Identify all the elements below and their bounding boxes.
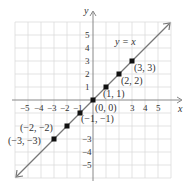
svg-text:5: 5 bbox=[156, 103, 161, 113]
svg-text:1: 1 bbox=[85, 82, 90, 92]
svg-text:4: 4 bbox=[143, 103, 148, 113]
coordinate-plane: y x y = x −5 −4 −3 −2 −1 3 4 5 5 4 3 2 1… bbox=[0, 0, 191, 190]
svg-text:−3: −3 bbox=[82, 134, 92, 144]
point-m2 bbox=[65, 124, 70, 129]
svg-text:−5: −5 bbox=[82, 160, 92, 170]
svg-text:(2, 2): (2, 2) bbox=[121, 75, 143, 87]
svg-text:(−2, −2): (−2, −2) bbox=[20, 122, 53, 134]
point-m3 bbox=[52, 137, 57, 142]
x-tick-labels: −5 −4 −3 −2 −1 3 4 5 bbox=[20, 103, 161, 113]
svg-text:−2: −2 bbox=[60, 103, 70, 113]
svg-text:(3, 3): (3, 3) bbox=[134, 62, 156, 74]
svg-text:(0, 0): (0, 0) bbox=[95, 102, 117, 114]
svg-text:3: 3 bbox=[130, 103, 135, 113]
svg-text:−3: −3 bbox=[47, 103, 57, 113]
svg-text:(−1, −1): (−1, −1) bbox=[81, 113, 114, 125]
svg-text:−4: −4 bbox=[34, 103, 44, 113]
svg-text:3: 3 bbox=[85, 56, 90, 66]
svg-text:4: 4 bbox=[85, 43, 90, 53]
svg-text:2: 2 bbox=[85, 69, 90, 79]
equation-label: y = x bbox=[114, 36, 136, 47]
svg-text:(−3, −3): (−3, −3) bbox=[8, 135, 41, 147]
svg-text:−5: −5 bbox=[20, 103, 30, 113]
svg-text:−1: −1 bbox=[73, 103, 83, 113]
svg-text:(1, 1): (1, 1) bbox=[103, 88, 125, 100]
x-axis-label: x bbox=[177, 103, 183, 114]
svg-text:5: 5 bbox=[85, 30, 90, 40]
svg-text:−4: −4 bbox=[82, 147, 92, 157]
y-axis-label: y bbox=[83, 5, 89, 16]
